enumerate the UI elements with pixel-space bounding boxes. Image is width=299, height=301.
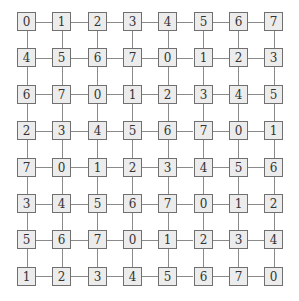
grid-node: 3 <box>264 48 283 67</box>
edge-horizontal <box>248 204 264 205</box>
edge-horizontal <box>36 240 52 241</box>
edge-vertical <box>27 213 28 230</box>
grid-node: 7 <box>194 121 213 140</box>
edge-vertical <box>132 177 133 194</box>
edge-vertical <box>62 104 63 121</box>
edge-horizontal <box>107 94 123 95</box>
edge-vertical <box>62 31 63 48</box>
edge-horizontal <box>213 204 229 205</box>
edge-horizontal <box>71 22 87 23</box>
edge-vertical <box>27 249 28 266</box>
grid-node: 7 <box>264 12 283 31</box>
grid-node: 3 <box>52 121 71 140</box>
edge-horizontal <box>248 131 264 132</box>
grid-node: 2 <box>52 267 71 286</box>
edge-horizontal <box>177 58 193 59</box>
edge-vertical <box>62 177 63 194</box>
grid-node: 1 <box>52 12 71 31</box>
edge-vertical <box>274 213 275 230</box>
edge-vertical <box>97 213 98 230</box>
edge-horizontal <box>71 167 87 168</box>
edge-vertical <box>62 249 63 266</box>
grid-node: 2 <box>123 158 142 177</box>
edge-vertical <box>132 140 133 157</box>
edge-horizontal <box>213 94 229 95</box>
edge-horizontal <box>107 167 123 168</box>
edge-vertical <box>203 31 204 48</box>
grid-node: 6 <box>123 194 142 213</box>
edge-vertical <box>168 213 169 230</box>
edge-vertical <box>238 67 239 84</box>
grid-node: 1 <box>17 267 36 286</box>
grid-node: 0 <box>88 85 107 104</box>
edge-horizontal <box>36 276 52 277</box>
grid-node: 2 <box>158 85 177 104</box>
grid-node: 7 <box>158 194 177 213</box>
grid-node: 1 <box>158 230 177 249</box>
edge-vertical <box>238 213 239 230</box>
edge-horizontal <box>213 22 229 23</box>
edge-vertical <box>238 177 239 194</box>
edge-horizontal <box>142 204 158 205</box>
edge-horizontal <box>107 240 123 241</box>
edge-horizontal <box>177 167 193 168</box>
edge-horizontal <box>213 167 229 168</box>
grid-node: 0 <box>158 48 177 67</box>
grid-node: 5 <box>88 194 107 213</box>
grid-node: 6 <box>88 48 107 67</box>
edge-vertical <box>274 177 275 194</box>
grid-node: 5 <box>264 85 283 104</box>
grid-node: 3 <box>88 267 107 286</box>
edge-horizontal <box>142 58 158 59</box>
edge-vertical <box>168 31 169 48</box>
edge-horizontal <box>213 276 229 277</box>
grid-node: 4 <box>264 230 283 249</box>
edge-vertical <box>97 31 98 48</box>
edge-horizontal <box>36 131 52 132</box>
grid-node: 0 <box>194 194 213 213</box>
edge-vertical <box>238 31 239 48</box>
grid-node: 4 <box>158 12 177 31</box>
edge-horizontal <box>142 276 158 277</box>
edge-vertical <box>274 249 275 266</box>
grid-node: 1 <box>264 121 283 140</box>
grid-node: 2 <box>229 48 248 67</box>
edge-horizontal <box>71 276 87 277</box>
edge-vertical <box>27 67 28 84</box>
grid-node: 6 <box>229 12 248 31</box>
grid-node: 0 <box>264 267 283 286</box>
grid-node: 4 <box>194 158 213 177</box>
edge-vertical <box>97 140 98 157</box>
edge-vertical <box>97 249 98 266</box>
edge-vertical <box>132 249 133 266</box>
edge-horizontal <box>177 276 193 277</box>
grid-node: 7 <box>17 158 36 177</box>
edge-horizontal <box>142 94 158 95</box>
grid-node: 6 <box>158 121 177 140</box>
grid-node: 5 <box>194 12 213 31</box>
grid-node: 1 <box>88 158 107 177</box>
edge-horizontal <box>107 131 123 132</box>
grid-node: 4 <box>52 194 71 213</box>
grid-diagram: 0123456745670123670123452345670170123456… <box>0 0 299 301</box>
edge-horizontal <box>177 131 193 132</box>
grid-node: 4 <box>229 85 248 104</box>
edge-vertical <box>168 177 169 194</box>
grid-node: 5 <box>123 121 142 140</box>
grid-node: 6 <box>264 158 283 177</box>
edge-horizontal <box>142 131 158 132</box>
grid-node: 6 <box>194 267 213 286</box>
grid-node: 6 <box>52 230 71 249</box>
edge-horizontal <box>71 204 87 205</box>
grid-node: 3 <box>229 230 248 249</box>
grid-node: 5 <box>158 267 177 286</box>
edge-vertical <box>274 31 275 48</box>
edge-horizontal <box>142 22 158 23</box>
edge-horizontal <box>248 240 264 241</box>
grid-node: 3 <box>123 12 142 31</box>
edge-vertical <box>168 249 169 266</box>
edge-horizontal <box>107 58 123 59</box>
grid-node: 3 <box>17 194 36 213</box>
edge-horizontal <box>71 240 87 241</box>
edge-horizontal <box>213 58 229 59</box>
